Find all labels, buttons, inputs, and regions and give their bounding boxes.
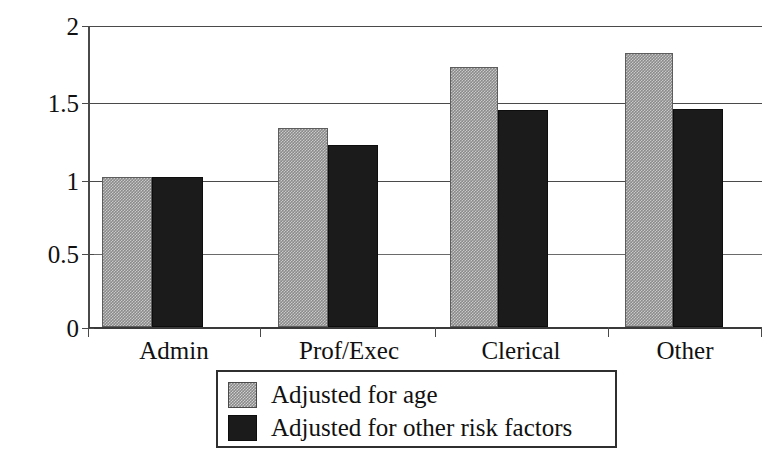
y-tick-label: 0 (67, 316, 80, 341)
x-tick-mark-1 (260, 327, 261, 337)
x-axis-label-admin: Admin (139, 337, 208, 365)
bar-prof-exec-adjusted-for-age (278, 128, 328, 327)
bar-chart-figure: 2 1.5 1 0.5 0 Admin Prof/Exec Clerical O… (0, 0, 773, 459)
bar-prof-exec-adjusted-for-other-risk-factors (328, 145, 378, 327)
chart-legend: Adjusted for age Adjusted for other risk… (216, 370, 617, 448)
y-tick-mark (82, 254, 94, 255)
legend-label: Adjusted for other risk factors (271, 415, 572, 440)
y-axis-line (88, 26, 90, 328)
bar-other-adjusted-for-other-risk-factors (673, 109, 723, 327)
bar-clerical-adjusted-for-other-risk-factors (498, 110, 548, 327)
x-tick-mark-2 (435, 327, 436, 337)
x-tick-mark-3 (608, 327, 609, 337)
gridline-2 (88, 26, 762, 27)
plot-area (88, 26, 762, 327)
legend-entry-adjusted-for-other-risk-factors: Adjusted for other risk factors (228, 411, 615, 444)
bar-other-adjusted-for-age (625, 53, 673, 327)
bar-admin-adjusted-for-other-risk-factors (152, 177, 203, 328)
legend-swatch-black-icon (228, 415, 257, 441)
y-tick-mark (82, 103, 94, 104)
legend-entry-adjusted-for-age: Adjusted for age (228, 378, 615, 411)
x-tick-mark-0 (88, 327, 89, 337)
bar-clerical-adjusted-for-age (450, 67, 498, 327)
legend-label: Adjusted for age (271, 382, 438, 407)
y-tick-mark (82, 26, 94, 27)
x-axis-label-clerical: Clerical (481, 337, 560, 365)
y-tick-label: 1 (67, 169, 80, 194)
y-tick-label: 2 (67, 14, 80, 39)
y-tick-label: 1.5 (48, 91, 79, 116)
x-axis-label-other: Other (657, 337, 714, 365)
x-tick-mark-4 (761, 327, 762, 337)
bar-admin-adjusted-for-age (102, 177, 152, 328)
y-tick-mark (82, 181, 94, 182)
legend-swatch-gray-icon (228, 382, 257, 408)
x-axis-label-prof-exec: Prof/Exec (299, 337, 399, 365)
y-tick-label: 0.5 (48, 242, 79, 267)
x-axis-line (88, 327, 762, 329)
